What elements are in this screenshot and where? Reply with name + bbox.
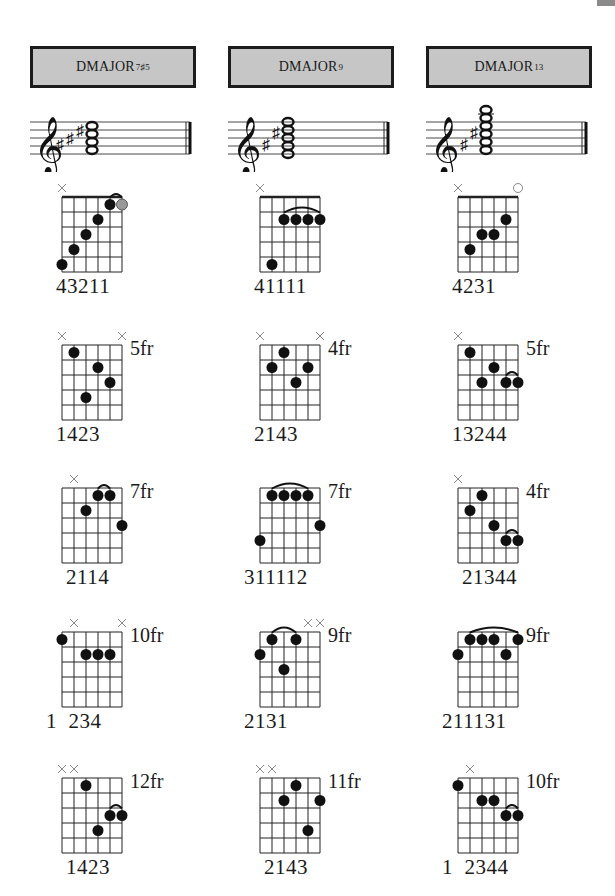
finger-dot [267,634,278,645]
finger-dot [93,490,104,501]
finger-dot [477,634,488,645]
finger-dot [93,649,104,660]
muted-string-icon [454,184,462,192]
finger-dot [279,347,290,358]
finger-dot [69,244,80,255]
fret-position-label: 9fr [526,624,549,647]
chord-diagram: 10fr1 2344 [438,756,568,871]
muted-string-icon [70,619,78,627]
finger-dot [81,780,92,791]
chord-diagram: 11fr2143 [240,756,370,871]
fingering-label: 2143 [254,422,298,447]
chord-diagram: 7fr2114 [42,466,172,581]
chord-extension: 7♯5 [136,62,150,72]
finger-dot [267,362,278,373]
chord-diagram: 41111 [240,175,370,290]
muted-string-icon [256,332,264,340]
finger-dot [81,229,92,240]
fret-position-label: 4fr [328,337,351,360]
finger-dot [501,649,512,660]
finger-dot [315,795,326,806]
finger-dot [105,649,116,660]
treble-clef-icon: 𝄞 [232,116,262,172]
fretboard-grid [240,175,370,290]
staff-notation-dmaj7s5: 𝄞♯♯♯ [28,100,198,172]
finger-dot [303,490,314,501]
finger-dot [465,634,476,645]
fret-position-label: 7fr [328,480,351,503]
finger-dot [105,810,116,821]
sharp-icon: ♯ [66,130,74,147]
fingering-label: 311112 [244,565,308,590]
finger-dot [501,214,512,225]
fingering-label: 43211 [56,274,110,299]
staff-notation-dmaj9: 𝄞♯♯ [226,100,396,172]
fingering-label: 2143 [264,855,308,880]
fret-position-label: 7fr [130,480,153,503]
chord-diagram: 10fr1 234 [42,610,172,725]
finger-dot [81,649,92,660]
finger-dot [279,214,290,225]
finger-dot [93,362,104,373]
chord-name: DMAJOR [474,59,533,75]
finger-dot [501,377,512,388]
finger-dot [489,520,500,531]
finger-dot [105,377,116,388]
chord-diagram: 5fr1423 [42,323,172,438]
sharp-icon: ♯ [470,124,478,141]
muted-string-icon [256,184,264,192]
finger-dot [69,347,80,358]
chord-diagram: 12fr1423 [42,756,172,871]
finger-dot [477,229,488,240]
finger-dot [255,649,266,660]
finger-dot [279,664,290,675]
finger-dot [93,825,104,836]
chord-diagram: 9fr211131 [438,610,568,725]
muted-string-icon [58,184,66,192]
chord-extension: 13 [534,62,543,72]
muted-string-icon [268,765,276,773]
muted-string-icon [304,619,312,627]
finger-dot [291,634,302,645]
fret-position-label: 10fr [526,770,559,793]
finger-dot [81,505,92,516]
muted-string-icon [70,765,78,773]
finger-dot [489,795,500,806]
fretboard-grid [438,175,568,290]
chord-title-dmaj13: DMAJOR13 [426,46,592,88]
finger-dot [513,535,524,546]
fret-position-label: 10fr [130,624,163,647]
muted-string-icon [466,765,474,773]
finger-dot [117,810,128,821]
page-corner-tab [597,0,615,6]
muted-string-icon [316,332,324,340]
finger-dot [513,377,524,388]
muted-string-icon [118,332,126,340]
fingering-label: 1423 [66,855,110,880]
chord-diagram: 4231 [438,175,568,290]
fret-position-label: 9fr [328,624,351,647]
finger-dot [291,490,302,501]
chord-extension: 9 [339,62,344,72]
staff-notation-dmaj13: 𝄞♯♯ [424,100,594,172]
muted-string-icon [256,765,264,773]
fret-position-label: 4fr [526,480,549,503]
finger-dot [93,214,104,225]
sharp-icon: ♯ [460,136,468,153]
fingering-label: 1 234 [46,709,102,734]
finger-dot [267,259,278,270]
chord-diagram: 9fr2131 [240,610,370,725]
fingering-label: 21344 [462,565,517,590]
fret-position-label: 5fr [526,337,549,360]
chord-name: DMAJOR [76,59,135,75]
finger-dot [465,347,476,358]
finger-dot [303,825,314,836]
finger-dot [315,214,326,225]
finger-dot [105,199,116,210]
fingering-label: 4231 [452,274,496,299]
chord-diagram: 5fr13244 [438,323,568,438]
finger-dot [453,649,464,660]
finger-dot [81,392,92,403]
finger-dot [453,780,464,791]
muted-string-icon [70,475,78,483]
